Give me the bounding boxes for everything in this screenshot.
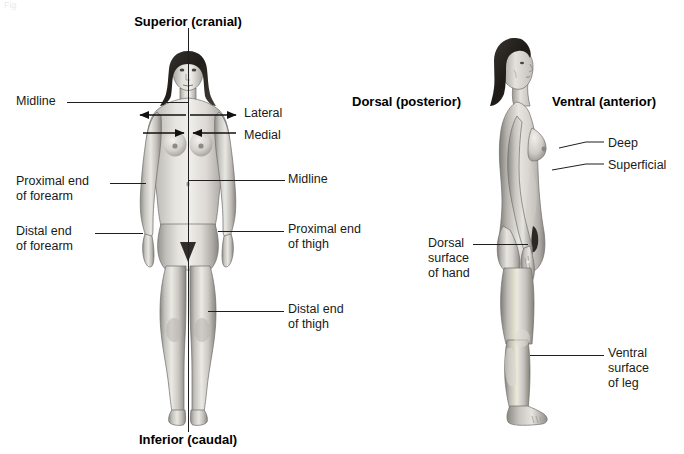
dorsal-heading: Dorsal (posterior) xyxy=(352,94,461,109)
diagram-canvas: Fig xyxy=(0,0,684,454)
lateral-body-figure xyxy=(470,30,580,428)
leader-dorsal-hand xyxy=(473,244,528,245)
label-distal-thigh: Distal end of thigh xyxy=(288,302,344,332)
inferior-heading: Inferior (caudal) xyxy=(108,432,268,447)
label-proximal-thigh: Proximal end of thigh xyxy=(288,222,361,252)
label-deep: Deep xyxy=(608,136,638,151)
leader-proximal-forearm xyxy=(110,183,146,184)
label-proximal-forearm: Proximal end of forearm xyxy=(16,174,89,204)
label-distal-forearm: Distal end of forearm xyxy=(16,224,73,254)
figure-caption-fragment: Fig xyxy=(4,0,94,11)
leader-ventral-leg xyxy=(530,355,604,356)
leader-distal-forearm xyxy=(95,233,143,234)
anterior-midline-axis xyxy=(188,28,189,432)
label-midline-left: Midline xyxy=(16,94,56,109)
leader-proximal-thigh xyxy=(218,231,284,232)
label-lateral: Lateral xyxy=(244,106,282,121)
superior-heading: Superior (cranial) xyxy=(108,14,268,29)
label-midline-right: Midline xyxy=(288,172,328,187)
label-ventral-surface-of-leg: Ventral surface of leg xyxy=(608,346,649,391)
leader-distal-thigh xyxy=(208,311,284,312)
leader-midline-right xyxy=(188,180,285,181)
leader-midline-left xyxy=(67,102,188,103)
ventral-heading: Ventral (anterior) xyxy=(552,94,656,109)
label-superficial: Superficial xyxy=(608,158,666,173)
label-medial: Medial xyxy=(244,128,281,143)
label-dorsal-surface-of-hand: Dorsal surface of hand xyxy=(428,236,470,281)
